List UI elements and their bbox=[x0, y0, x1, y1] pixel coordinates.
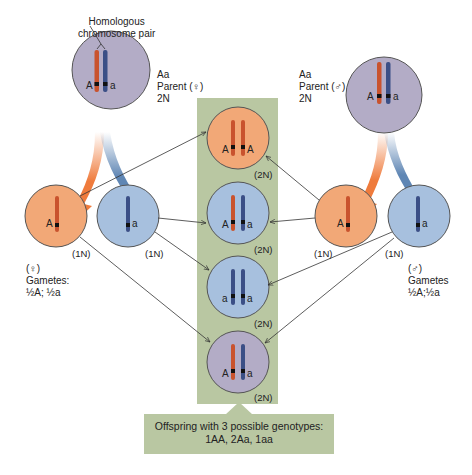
allele-label: a bbox=[247, 219, 253, 231]
male-gametes-legend: (♂) Gametes ½A;½a bbox=[408, 263, 449, 299]
offspring-Aa-cell-1 bbox=[207, 182, 269, 244]
allele-label: A bbox=[367, 91, 374, 103]
female-gamete-A-cell bbox=[25, 185, 87, 247]
diagram-canvas bbox=[0, 0, 472, 475]
parent-female-info: Aa Parent (♀) 2N bbox=[157, 69, 203, 105]
male-gametes-ratio: ½A;½a bbox=[408, 287, 449, 299]
allele-label: A bbox=[247, 144, 254, 156]
parent-male-ploidy: 2N bbox=[299, 93, 345, 105]
parent-male-cell bbox=[346, 57, 422, 133]
male-symbol: (♂) bbox=[408, 263, 449, 275]
male-gametes-title: Gametes bbox=[408, 275, 449, 287]
female-gametes-legend: (♀) Gametes: ½A; ½a bbox=[26, 263, 69, 299]
parent-female-label: Parent (♀) bbox=[157, 81, 203, 93]
annotation-line-2: chromosome pair bbox=[78, 28, 155, 40]
allele-label: A bbox=[222, 144, 229, 156]
allele-label: A bbox=[222, 368, 229, 380]
offspring-ploidy: (2N) bbox=[254, 244, 272, 255]
female-gamete-A-ploidy: (1N) bbox=[72, 248, 90, 259]
allele-label: a bbox=[110, 80, 116, 92]
allele-label: a bbox=[393, 91, 399, 103]
male-gamete-a-cell bbox=[388, 185, 450, 247]
parent-female-ploidy: 2N bbox=[157, 93, 203, 105]
female-gametes-title: Gametes: bbox=[26, 275, 69, 287]
parent-male-info: Aa Parent (♂) 2N bbox=[299, 69, 345, 105]
male-gamete-a-ploidy: (1N) bbox=[385, 248, 403, 259]
offspring-Aa-cell-2 bbox=[207, 331, 269, 393]
offspring-AA-cell bbox=[207, 107, 269, 169]
allele-label: A bbox=[222, 219, 229, 231]
allele-label: a bbox=[222, 293, 228, 305]
male-gamete-A-ploidy: (1N) bbox=[314, 248, 332, 259]
allele-label: a bbox=[422, 218, 428, 230]
offspring-ploidy: (2N) bbox=[254, 318, 272, 329]
female-gamete-a-cell bbox=[97, 185, 159, 247]
allele-label: a bbox=[132, 218, 138, 230]
annotation-line-1: Homologous bbox=[78, 16, 155, 28]
offspring-ploidy: (2N) bbox=[254, 392, 272, 403]
parent-female-genotype: Aa bbox=[157, 69, 203, 81]
female-gametes-ratio: ½A; ½a bbox=[26, 287, 69, 299]
parent-male-label: Parent (♂) bbox=[299, 81, 345, 93]
allele-label: a bbox=[247, 293, 253, 305]
female-gamete-a-ploidy: (1N) bbox=[145, 248, 163, 259]
allele-label: A bbox=[337, 218, 344, 230]
allele-label: a bbox=[247, 368, 253, 380]
offspring-aa-cell bbox=[207, 256, 269, 318]
male-gamete-A-cell bbox=[315, 185, 377, 247]
female-symbol: (♀) bbox=[26, 263, 69, 275]
homologous-pair-annotation: Homologous chromosome pair bbox=[78, 16, 155, 40]
allele-label: A bbox=[46, 218, 53, 230]
offspring-ploidy: (2N) bbox=[254, 169, 272, 180]
parent-male-genotype: Aa bbox=[299, 69, 345, 81]
allele-label: A bbox=[86, 80, 93, 92]
